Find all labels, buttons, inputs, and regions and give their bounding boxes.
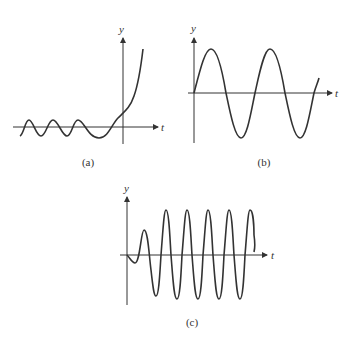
caption-b: (b) [258,156,271,169]
caption-c: (c) [186,316,199,329]
y-label: y [123,182,129,194]
panel-b: y t (b) [188,22,339,169]
caption-a: (a) [82,156,95,169]
panel-c: y t (c) [120,182,275,329]
curve-a [20,49,143,138]
t-label: t [335,87,339,99]
y-label: y [118,23,124,35]
t-label: t [271,249,275,261]
panel-a: y t (a) [13,23,165,169]
t-label: t [161,121,165,133]
figure: y t (a) y t (b) y t (c) [0,0,350,342]
y-label: y [190,22,196,34]
